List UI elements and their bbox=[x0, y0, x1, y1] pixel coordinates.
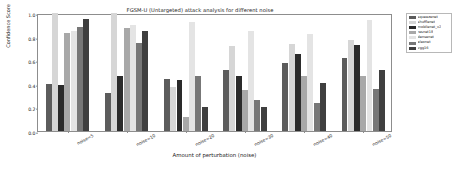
bar-vgg16-noise=40 bbox=[320, 83, 326, 131]
y-tick-mark bbox=[36, 38, 38, 39]
bar-squeezenet-noise=5 bbox=[46, 84, 52, 131]
bar-mobilenet_v2-noise=5 bbox=[58, 85, 64, 131]
bar-resnet18-noise=30 bbox=[242, 90, 248, 131]
bar-densenet-noise=30 bbox=[248, 31, 254, 131]
bar-resnet18-noise=5 bbox=[64, 33, 70, 131]
plot-area: 0.00.20.40.60.81.0noise=5noise=10noise=2… bbox=[37, 14, 392, 132]
bar-densenet-noise=10 bbox=[130, 25, 136, 131]
bar-squeezenet-noise=10 bbox=[105, 93, 111, 131]
x-tick-mark bbox=[127, 131, 128, 133]
bar-squeezenet-noise=20 bbox=[164, 79, 170, 131]
bar-densenet-noise=20 bbox=[189, 22, 195, 131]
bar-resnet18-noise=20 bbox=[183, 117, 189, 131]
bar-shufflenet-noise=10 bbox=[111, 13, 117, 131]
bar-mobilenet_v2-noise=30 bbox=[236, 76, 242, 131]
legend-swatch-icon bbox=[409, 21, 416, 24]
legend-swatch-icon bbox=[409, 36, 416, 39]
bar-group bbox=[275, 15, 334, 131]
bar-mobilenet_v2-noise=20 bbox=[177, 80, 183, 131]
bar-group bbox=[97, 15, 156, 131]
bar-alexnet-noise=50 bbox=[373, 89, 379, 131]
bar-group bbox=[216, 15, 275, 131]
bar-group bbox=[156, 15, 215, 131]
bar-mobilenet_v2-noise=10 bbox=[117, 76, 123, 131]
x-tick-label: noise=30 bbox=[254, 133, 275, 147]
legend-swatch-icon bbox=[409, 16, 416, 19]
bar-vgg16-noise=5 bbox=[83, 19, 89, 131]
legend-label: vgg16 bbox=[418, 46, 429, 51]
x-tick-label: noise=50 bbox=[372, 133, 393, 147]
bar-alexnet-noise=10 bbox=[136, 43, 142, 132]
x-tick-mark bbox=[363, 131, 364, 133]
bar-squeezenet-noise=30 bbox=[223, 70, 229, 131]
bar-densenet-noise=5 bbox=[71, 31, 77, 131]
bars-layer bbox=[38, 15, 391, 131]
x-tick-label: noise=5 bbox=[76, 133, 94, 146]
bar-resnet18-noise=40 bbox=[301, 76, 307, 131]
bar-alexnet-noise=40 bbox=[314, 103, 320, 131]
x-tick-mark bbox=[186, 131, 187, 133]
bar-resnet18-noise=10 bbox=[124, 28, 130, 131]
bar-vgg16-noise=50 bbox=[379, 70, 385, 131]
bar-shufflenet-noise=40 bbox=[289, 44, 295, 131]
bar-alexnet-noise=5 bbox=[77, 27, 83, 131]
bar-densenet-noise=50 bbox=[367, 20, 373, 131]
bar-shufflenet-noise=20 bbox=[170, 87, 176, 131]
bar-shufflenet-noise=5 bbox=[52, 13, 58, 131]
bar-alexnet-noise=30 bbox=[254, 100, 260, 131]
bar-mobilenet_v2-noise=40 bbox=[295, 54, 301, 131]
y-tick-mark bbox=[36, 62, 38, 63]
bar-vgg16-noise=10 bbox=[142, 31, 148, 131]
y-tick-mark bbox=[36, 15, 38, 16]
y-tick-mark bbox=[36, 133, 38, 134]
bar-group bbox=[38, 15, 97, 131]
bar-resnet18-noise=50 bbox=[360, 76, 366, 131]
legend-swatch-icon bbox=[409, 47, 416, 50]
x-axis-label: Amount of perturbation (noise) bbox=[37, 152, 392, 158]
y-tick-mark bbox=[36, 109, 38, 110]
x-tick-mark bbox=[245, 131, 246, 133]
legend-swatch-icon bbox=[409, 26, 416, 29]
x-tick-mark bbox=[68, 131, 69, 133]
chart-title: FGSM-U (Untargeted) attack analysis for … bbox=[0, 7, 400, 13]
x-tick-mark bbox=[304, 131, 305, 133]
bar-mobilenet_v2-noise=50 bbox=[354, 45, 360, 131]
bar-alexnet-noise=20 bbox=[195, 76, 201, 131]
legend-swatch-icon bbox=[409, 42, 416, 45]
chart-figure: FGSM-U (Untargeted) attack analysis for … bbox=[0, 0, 453, 170]
bar-shufflenet-noise=50 bbox=[348, 40, 354, 131]
chart-legend: squeezenetshufflenetmobilenet_v2resnet18… bbox=[406, 13, 452, 54]
x-tick-label: noise=20 bbox=[194, 133, 215, 147]
bar-group bbox=[334, 15, 393, 131]
bar-vgg16-noise=30 bbox=[261, 107, 267, 131]
bar-squeezenet-noise=40 bbox=[282, 63, 288, 131]
bar-squeezenet-noise=50 bbox=[342, 58, 348, 131]
bar-densenet-noise=40 bbox=[307, 34, 313, 131]
bar-shufflenet-noise=30 bbox=[229, 46, 235, 131]
y-tick-mark bbox=[36, 85, 38, 86]
bar-vgg16-noise=20 bbox=[202, 107, 208, 131]
y-axis-label: Confidence Score bbox=[5, 0, 11, 62]
legend-swatch-icon bbox=[409, 31, 416, 34]
legend-item-vgg16[interactable]: vgg16 bbox=[409, 46, 450, 51]
x-tick-label: noise=40 bbox=[313, 133, 334, 147]
x-tick-label: noise=10 bbox=[135, 133, 156, 147]
